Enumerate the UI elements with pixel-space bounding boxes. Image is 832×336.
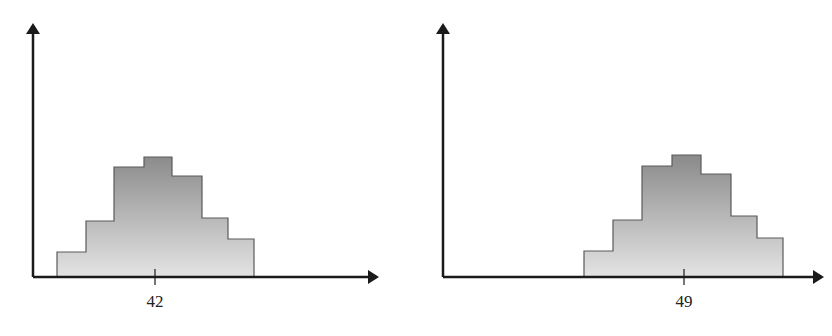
right-x-axis-arrow-icon (813, 270, 824, 284)
right-histogram-chart: 49 (436, 23, 824, 311)
left-x-axis-arrow-icon (368, 270, 379, 284)
histogram-figure: 42 49 (0, 0, 832, 336)
left-histogram-chart: 42 (26, 23, 379, 311)
left-tick-label: 42 (147, 292, 164, 311)
right-tick-label: 49 (676, 292, 693, 311)
right-y-axis-arrow-icon (436, 23, 450, 34)
left-histogram-bars (57, 157, 254, 277)
right-histogram-bars (584, 155, 783, 277)
left-y-axis-arrow-icon (26, 23, 40, 34)
